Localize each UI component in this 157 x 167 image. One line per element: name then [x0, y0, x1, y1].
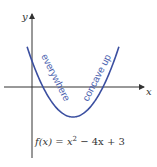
annotation-everywhere: everywhere: [39, 52, 72, 103]
equation-label: f(x) = x2 − 4x + 3: [34, 135, 125, 147]
equation-rhs: − 4x + 3: [77, 136, 125, 147]
y-axis-label: y: [21, 11, 28, 22]
x-axis-label: x: [146, 86, 152, 97]
function-diagram: x y everywhere concave up f(x) = x2 − 4x…: [0, 0, 157, 167]
equation-lhs: f(x) = x: [34, 136, 73, 147]
